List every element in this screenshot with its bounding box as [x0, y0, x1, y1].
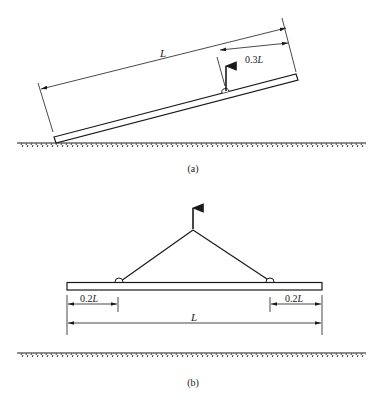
caption-a: (a) — [187, 163, 198, 175]
dimension-left-b: 0.2L — [68, 293, 117, 304]
figure-b: 0.2L 0.2L L (b) — [17, 208, 366, 389]
ground-a — [17, 143, 366, 147]
dimension-total-b: L — [68, 311, 321, 323]
dim-total-label-b: L — [190, 311, 197, 323]
dimension-lift-a: 0.3L — [220, 43, 288, 65]
dim-total-label-a: L — [159, 47, 166, 59]
ground-b — [17, 353, 366, 357]
dim-lift-label-a: 0.3L — [245, 54, 264, 65]
diagram-canvas: L 0.3L (a) — [0, 0, 386, 400]
dimension-right-b: 0.2L — [271, 293, 321, 304]
sling-b — [121, 208, 270, 281]
dim-left-label-b: 0.2L — [80, 293, 99, 304]
horizontal-beam — [67, 283, 322, 291]
lift-lug-left — [115, 278, 123, 282]
inclined-beam — [54, 74, 298, 143]
dim-right-label-b: 0.2L — [285, 293, 304, 304]
figure-a: L 0.3L (a) — [17, 18, 366, 175]
lift-lug-right — [266, 278, 274, 282]
caption-b: (b) — [187, 377, 199, 389]
